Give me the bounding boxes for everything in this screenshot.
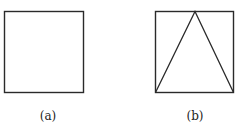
square-a <box>5 12 84 93</box>
square-b <box>156 12 234 93</box>
label-a: (a) <box>18 109 78 123</box>
figure-b <box>156 12 234 93</box>
label-b: (b) <box>165 109 225 123</box>
triangle-b <box>156 12 234 93</box>
figure-a <box>5 12 84 93</box>
